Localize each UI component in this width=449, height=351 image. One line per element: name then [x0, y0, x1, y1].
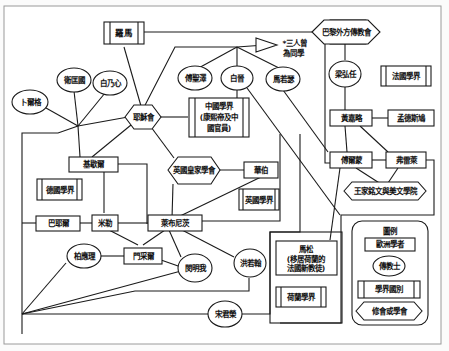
node-hongruohan-label: 洪若翰 [240, 258, 262, 268]
node-maruose[interactable]: 馬若瑟 [266, 67, 300, 91]
legend-field: 學界國別 [358, 281, 420, 298]
node-baeryuer-label: 巴耶爾 [48, 219, 70, 228]
legend: 圖例 歐洲學者 傳教士 學界國別 修會或學會 [352, 221, 428, 325]
node-jichaer-label: 基歇爾 [82, 159, 105, 169]
node-weikuangguo[interactable]: 衛匡國 [57, 68, 91, 92]
node-baeryuer[interactable]: 巴耶爾 [36, 216, 80, 231]
zhongguo-line1: 中國學界 [205, 101, 234, 111]
zhongguo-line3: 國官員) [207, 123, 231, 133]
node-laibunici[interactable]: 萊布尼茨 [148, 215, 202, 231]
node-maruose-label: 馬若瑟 [273, 74, 295, 84]
node-faguo-label: 法國學界 [392, 71, 421, 81]
node-helan-label: 荷蘭學界 [286, 292, 316, 302]
legend-scholar: 歐洲學者 [365, 238, 415, 251]
legend-society: 修會或學會 [356, 302, 422, 320]
node-yingguohuangjia[interactable]: 英國皇家學會 [168, 157, 220, 184]
node-yingguohuangjia-label: 英國皇家學會 [173, 165, 216, 175]
node-bali-label: 巴黎外方傳教會 [322, 27, 372, 37]
masong-line1: 馬松 [299, 244, 314, 254]
node-wangjia-label: 王家銘文與美文學院 [354, 186, 418, 196]
node-bainaixin[interactable]: 白乃心 [93, 71, 127, 95]
node-bainaixin-label: 白乃心 [100, 78, 122, 88]
node-helan[interactable]: 荷蘭學界 [276, 287, 326, 307]
node-fuleilai-label: 弗雷萊 [396, 155, 418, 165]
node-lianghongren-label: 梁弘任 [334, 69, 357, 79]
node-songjunrong-label: 宋君榮 [215, 309, 237, 319]
node-jichaer[interactable]: 基歇爾 [69, 157, 118, 172]
node-deguo-label: 德國學界 [46, 185, 75, 195]
node-minmingwo-label: 閔明我 [185, 263, 207, 273]
node-lianghongren[interactable]: 梁弘任 [329, 61, 361, 87]
legend-jesuit-label: 傳教士 [378, 261, 401, 271]
node-mile[interactable]: 米勒 [92, 215, 118, 231]
node-yingguo[interactable]: 英國學界 [239, 189, 279, 210]
node-baijin-label: 白晉 [230, 73, 245, 83]
node-luoma-label: 羅馬 [115, 28, 133, 38]
node-songjunrong[interactable]: 宋君榮 [208, 301, 242, 327]
node-huabo[interactable]: 華伯 [244, 162, 278, 178]
node-huangjialue[interactable]: 黃嘉略 [330, 110, 372, 126]
node-mencaier[interactable]: 門采爾 [124, 248, 162, 264]
node-luoma[interactable]: 羅馬 [104, 22, 144, 44]
node-laibunici-label: 萊布尼茨 [160, 218, 190, 228]
node-fushengze-label: 傅聖澤 [184, 73, 207, 83]
node-bailiangli[interactable]: 柏應理 [67, 244, 101, 268]
legend-field-label: 學界國別 [375, 284, 403, 294]
node-bailiangli-label: 柏應理 [74, 251, 96, 261]
node-hongruohan[interactable]: 洪若翰 [234, 249, 266, 277]
node-bujiege[interactable]: 卜爾格 [12, 90, 48, 114]
masong-line3: 法國新教徒) [287, 263, 325, 273]
legend-jesuit: 傳教士 [373, 256, 405, 276]
node-minmingwo[interactable]: 閔明我 [178, 254, 212, 282]
node-faguo[interactable]: 法國學界 [381, 66, 431, 86]
node-bali[interactable]: 巴黎外方傳教會 [312, 20, 380, 44]
node-huabo-label: 華伯 [254, 165, 268, 175]
node-huangjialue-label: 黃嘉略 [341, 113, 363, 123]
node-baijin[interactable]: 白晉 [221, 66, 253, 90]
zhongguo-line2: (康熙帝及中 [200, 112, 238, 122]
node-deguo[interactable]: 德國學界 [37, 179, 82, 200]
legend-society-label: 修會或學會 [371, 306, 408, 316]
node-mengdesijiu-label: 孟德斯鳩 [397, 113, 426, 123]
node-yesuhui-label: 耶穌會 [133, 112, 155, 122]
diagram-canvas: 羅馬 *三人曾 為同學 巴黎外方傳教會 卜爾格 衛匡國 白乃心 傅聖澤 白晉 馬… [0, 0, 449, 351]
node-zhongguo[interactable]: 中國學界 (康熙帝及中 國官員) [189, 98, 249, 137]
node-masong[interactable]: 馬松 (移居荷蘭的 法國新教徒) [276, 241, 337, 275]
node-mencaier-label: 門采爾 [133, 251, 155, 261]
node-wangjia[interactable]: 王家銘文與美文學院 [344, 182, 426, 200]
node-bujiege-label: 卜爾格 [20, 97, 42, 107]
node-yingguo-label: 英國學界 [245, 195, 274, 205]
note-line1: *三人曾 [283, 38, 308, 48]
node-fushengze[interactable]: 傅聖澤 [178, 66, 212, 90]
node-weikuangguo-label: 衛匡國 [63, 75, 86, 85]
node-mile-label: 米勒 [98, 218, 113, 228]
legend-scholar-label: 歐洲學者 [376, 239, 405, 249]
masong-line2: (移居荷蘭的 [287, 254, 326, 264]
node-fuermeng[interactable]: 傅爾蒙 [330, 152, 372, 168]
node-fuleilai[interactable]: 弗雷萊 [386, 152, 426, 168]
note-line2: 為同學 [283, 48, 305, 58]
network-diagram: 羅馬 *三人曾 為同學 巴黎外方傳教會 卜爾格 衛匡國 白乃心 傅聖澤 白晉 馬… [0, 0, 449, 351]
node-fuermeng-label: 傅爾蒙 [340, 155, 363, 165]
node-mengdesijiu[interactable]: 孟德斯鳩 [388, 110, 434, 126]
legend-title: 圖例 [383, 226, 398, 236]
